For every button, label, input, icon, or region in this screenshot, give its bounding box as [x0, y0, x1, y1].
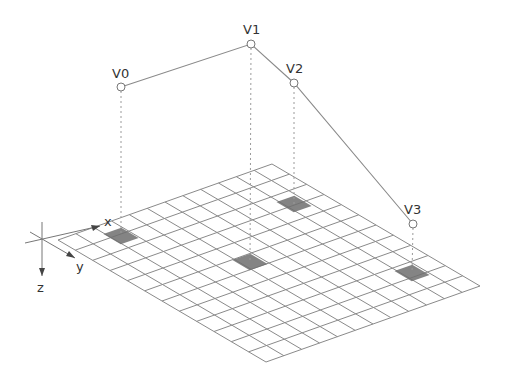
vertex-v1-icon[interactable] — [247, 40, 255, 48]
vertex-v0-icon[interactable] — [117, 83, 125, 91]
y-arrow-icon — [66, 251, 75, 258]
diagram-svg: x y z V0V1V2V3 — [0, 0, 506, 378]
vertex-label-v1: V1 — [243, 22, 260, 37]
vertex-v2-icon[interactable] — [290, 79, 298, 87]
axis-indicator: x y z — [25, 214, 112, 295]
y-axis-label: y — [76, 259, 84, 274]
vertex-label-v3: V3 — [404, 202, 421, 217]
grid-plane — [58, 164, 480, 362]
projection-lines — [121, 48, 413, 273]
control-polyline — [121, 44, 413, 224]
control-vertices: V0V1V2V3 — [112, 22, 421, 228]
vertex-v3-icon[interactable] — [409, 220, 417, 228]
vertex-label-v0: V0 — [112, 66, 129, 81]
x-axis-label: x — [104, 214, 112, 229]
control-polyline-path — [121, 44, 413, 224]
z-axis-label: z — [37, 280, 44, 295]
vertex-label-v2: V2 — [286, 61, 303, 76]
diagram-canvas: x y z V0V1V2V3 — [0, 0, 506, 378]
shaded-cells — [103, 196, 429, 282]
x-axis-line — [25, 226, 100, 243]
z-arrow-icon — [39, 268, 45, 276]
projection-line — [250, 48, 251, 262]
